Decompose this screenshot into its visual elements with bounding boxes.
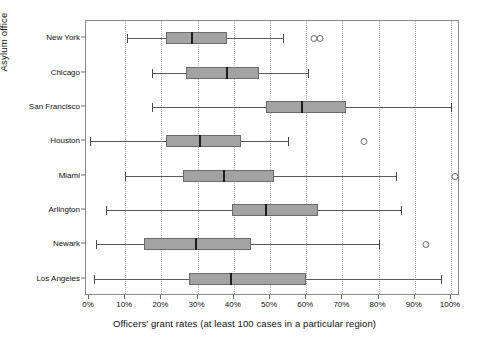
- whisker-cap-high: [401, 206, 402, 215]
- whisker-cap-low: [96, 240, 97, 249]
- whisker-cap-low: [90, 137, 91, 146]
- whisker-cap-low: [94, 275, 95, 284]
- box-iqr: [232, 204, 318, 216]
- x-tick-mark: [341, 295, 342, 299]
- outlier-point: [451, 173, 458, 180]
- x-tick-mark: [160, 295, 161, 299]
- x-tick-label-10%: 10%: [116, 300, 132, 309]
- y-tick-label-los-angeles: Los Angeles: [2, 273, 80, 282]
- y-tick-label-san-francisco: San Francisco: [2, 101, 80, 110]
- x-tick-label-80%: 80%: [370, 300, 386, 309]
- x-tick-mark: [414, 295, 415, 299]
- median-line: [230, 273, 232, 285]
- x-tick-label-0%: 0%: [82, 300, 94, 309]
- box-iqr: [166, 135, 241, 147]
- median-line: [191, 32, 193, 44]
- gridline-100%: [451, 21, 452, 294]
- gridline-90%: [415, 21, 416, 294]
- y-tick-label-chicago: Chicago: [2, 67, 80, 76]
- x-tick-label-100%: 100%: [440, 300, 460, 309]
- whisker-cap-low: [127, 34, 128, 43]
- y-tick-mark: [81, 174, 86, 175]
- x-tick-label-30%: 30%: [189, 300, 205, 309]
- box-iqr: [189, 273, 306, 285]
- whisker-cap-high: [441, 275, 442, 284]
- box-iqr: [183, 170, 274, 182]
- box-iqr: [166, 32, 227, 44]
- x-tick-mark: [450, 295, 451, 299]
- y-tick-label-houston: Houston: [2, 136, 80, 145]
- x-tick-label-20%: 20%: [152, 300, 168, 309]
- x-tick-label-40%: 40%: [225, 300, 241, 309]
- y-tick-mark: [81, 140, 86, 141]
- x-tick-mark: [233, 295, 234, 299]
- whisker-cap-low: [125, 172, 126, 181]
- x-tick-mark: [88, 295, 89, 299]
- x-tick-mark: [305, 295, 306, 299]
- y-tick-mark: [81, 277, 86, 278]
- y-tick-label-newark: Newark: [2, 239, 80, 248]
- x-tick-label-90%: 90%: [406, 300, 422, 309]
- y-tick-mark: [81, 105, 86, 106]
- whisker-cap-high: [379, 240, 380, 249]
- x-tick-mark: [378, 295, 379, 299]
- box-iqr: [186, 67, 259, 79]
- box-iqr: [266, 101, 346, 113]
- plot-area: [85, 20, 459, 295]
- median-line: [301, 101, 303, 113]
- whisker-cap-high: [288, 137, 289, 146]
- y-tick-label-new-york: New York: [2, 33, 80, 42]
- x-tick-label-70%: 70%: [333, 300, 349, 309]
- median-line: [195, 238, 197, 250]
- y-tick-mark: [81, 37, 86, 38]
- whisker-cap-high: [451, 103, 452, 112]
- x-tick-mark: [269, 295, 270, 299]
- median-line: [223, 170, 225, 182]
- gridline-70%: [342, 21, 343, 294]
- x-tick-mark: [197, 295, 198, 299]
- x-axis-title: Officers' grant rates (at least 100 case…: [0, 318, 489, 329]
- gridline-10%: [125, 21, 126, 294]
- whisker-cap-low: [152, 103, 153, 112]
- box-iqr: [144, 238, 251, 250]
- x-tick-mark: [124, 295, 125, 299]
- y-tick-mark: [81, 243, 86, 244]
- y-tick-label-arlington: Arlington: [2, 205, 80, 214]
- whisker-cap-low: [152, 69, 153, 78]
- whisker-cap-high: [396, 172, 397, 181]
- x-tick-label-60%: 60%: [297, 300, 313, 309]
- gridline-40%: [234, 21, 235, 294]
- gridline-50%: [270, 21, 271, 294]
- gridline-60%: [306, 21, 307, 294]
- gridline-80%: [379, 21, 380, 294]
- median-line: [226, 67, 228, 79]
- whisker-cap-high: [283, 34, 284, 43]
- y-tick-mark: [81, 209, 86, 210]
- y-tick-mark: [81, 71, 86, 72]
- outlier-point: [361, 138, 368, 145]
- gridline-30%: [198, 21, 199, 294]
- outlier-point: [422, 241, 429, 248]
- y-tick-label-miami: Miami: [2, 170, 80, 179]
- gridline-20%: [161, 21, 162, 294]
- x-tick-label-50%: 50%: [261, 300, 277, 309]
- whisker-cap-low: [106, 206, 107, 215]
- boxplot-chart: Asylum office New YorkChicagoSan Francis…: [0, 0, 489, 344]
- outlier-point: [316, 35, 323, 42]
- median-line: [265, 204, 267, 216]
- whisker-cap-high: [308, 69, 309, 78]
- median-line: [199, 135, 201, 147]
